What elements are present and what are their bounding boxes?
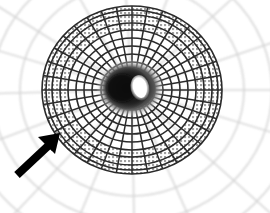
figure-container: Radial mesh funnel with annotation arrow… <box>0 0 270 213</box>
central-throat <box>96 59 164 117</box>
radial-mesh-figure <box>0 0 270 213</box>
